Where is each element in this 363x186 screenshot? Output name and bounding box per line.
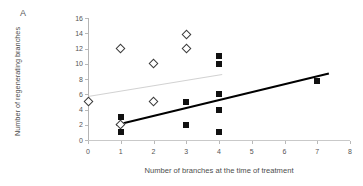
y-tick-label: 8 [61, 76, 83, 83]
data-point-diamond [149, 97, 159, 107]
y-tick-mark [85, 125, 88, 126]
x-tick-mark [88, 141, 89, 144]
y-tick-label: 4 [61, 106, 83, 113]
x-tick-mark [252, 141, 253, 144]
x-tick-label: 8 [342, 148, 358, 155]
data-point-square [118, 114, 124, 120]
data-point-diamond [83, 97, 93, 107]
data-point-square [216, 91, 222, 97]
x-tick-label: 5 [244, 148, 260, 155]
x-tick-mark [219, 141, 220, 144]
x-tick-label: 0 [80, 148, 96, 155]
y-axis-title: Number of regenerating branches [13, 12, 22, 152]
y-tick-mark [85, 64, 88, 65]
y-tick-label: 10 [61, 60, 83, 67]
x-tick-mark [154, 141, 155, 144]
data-point-square [216, 107, 222, 113]
scatter-plot: Number of regenerating branches Number o… [0, 0, 363, 186]
x-tick-label: 6 [277, 148, 293, 155]
y-tick-label: 6 [61, 91, 83, 98]
y-tick-label: 0 [61, 137, 83, 144]
y-tick-label: 2 [61, 121, 83, 128]
y-tick-label: 16 [61, 15, 83, 22]
data-point-diamond [181, 44, 191, 54]
x-tick-label: 2 [146, 148, 162, 155]
data-point-diamond [181, 30, 191, 40]
x-tick-mark [186, 141, 187, 144]
x-tick-mark [285, 141, 286, 144]
y-tick-label: 14 [61, 30, 83, 37]
y-axis-line [88, 18, 89, 141]
data-point-square [216, 61, 222, 67]
x-tick-label: 3 [178, 148, 194, 155]
x-tick-mark [350, 141, 351, 144]
data-point-square [314, 78, 320, 84]
x-tick-label: 1 [113, 148, 129, 155]
figure-panel-a: A Number of regenerating branches Number… [0, 0, 363, 186]
y-tick-mark [85, 79, 88, 80]
x-tick-label: 4 [211, 148, 227, 155]
data-point-square [118, 129, 124, 135]
data-point-square [183, 99, 189, 105]
x-tick-label: 7 [309, 148, 325, 155]
data-point-diamond [116, 44, 126, 54]
y-tick-label: 12 [61, 45, 83, 52]
data-point-square [183, 122, 189, 128]
y-tick-mark [85, 18, 88, 19]
grey-regression-line [88, 74, 222, 97]
data-point-square [216, 129, 222, 135]
x-tick-mark [317, 141, 318, 144]
data-point-diamond [149, 59, 159, 69]
y-tick-mark [85, 33, 88, 34]
x-tick-mark [121, 141, 122, 144]
y-tick-mark [85, 110, 88, 111]
y-tick-mark [85, 49, 88, 50]
x-axis-title: Number of branches at the time of treatm… [88, 166, 350, 175]
data-point-square [216, 53, 222, 59]
black-regression-line [116, 73, 329, 126]
